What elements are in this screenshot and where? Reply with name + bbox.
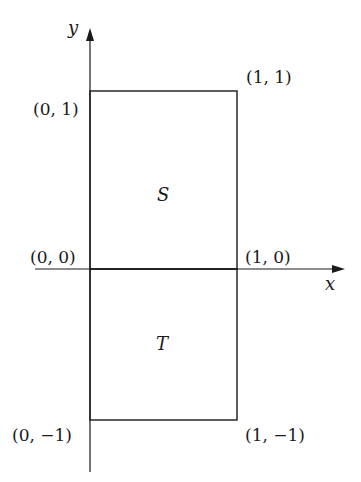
region-s-box [90, 91, 237, 269]
point-label-1-m1: (1, −1) [245, 425, 305, 445]
x-axis-label: x [325, 273, 335, 294]
x-axis-arrow-icon [332, 265, 345, 273]
region-s-label: S [157, 184, 169, 205]
y-axis-label: y [67, 17, 79, 38]
point-label-1-0: (1, 0) [245, 247, 291, 267]
point-label-0-1: (0, 1) [33, 99, 79, 119]
y-axis-arrow-icon [86, 28, 94, 41]
coordinate-diagram: y x S T (0, 1) (1, 1) (0, 0) (1, 0) (0, … [0, 0, 361, 482]
region-t-label: T [156, 333, 170, 354]
point-label-1-1: (1, 1) [246, 67, 292, 87]
point-label-0-0: (0, 0) [30, 247, 76, 267]
point-label-0-m1: (0, −1) [12, 425, 72, 445]
